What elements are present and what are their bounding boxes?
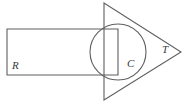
shape-label-c: C <box>127 57 135 69</box>
geometry-figure-svg: R C T <box>0 0 186 106</box>
geometry-figure-canvas: R C T <box>0 0 186 106</box>
shape-label-r: R <box>11 59 19 71</box>
rectangle-shape-r <box>7 29 118 75</box>
triangle-shape-t <box>104 3 181 100</box>
shape-label-t: T <box>162 43 169 55</box>
